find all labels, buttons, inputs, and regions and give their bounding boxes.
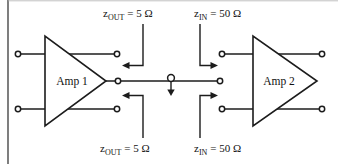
arrow-top-left-line [129, 24, 144, 66]
label-value: = 50 Ω [210, 7, 241, 19]
amp1-bottom-right-terminal [114, 106, 119, 111]
impedance-label-top-left: zOUT= 5 Ω [103, 7, 153, 22]
amp2-block: Amp 2 [217, 36, 324, 126]
impedance-label-top-right: zIN= 50 Ω [194, 7, 241, 22]
label-subscript: IN [199, 148, 208, 157]
amp1-block: Amp 1 [15, 36, 220, 126]
amp1-bottom-left-terminal [15, 106, 20, 111]
amp2-label: Amp 2 [263, 75, 295, 88]
amp2-top-left-terminal [219, 51, 224, 56]
amp1-top-left-terminal [15, 51, 20, 56]
amp1-top-right-terminal [114, 51, 119, 56]
circuit-figure: Amp 1 Amp 2 [0, 0, 338, 164]
amp1-output-terminal [115, 78, 120, 83]
arrow-left-icon [122, 62, 130, 69]
label-value: = 50 Ω [210, 142, 241, 154]
label-value: = 5 Ω [127, 7, 152, 19]
center-junction [167, 75, 174, 96]
down-arrow-icon [167, 90, 174, 97]
arrow-top-right-line [200, 24, 212, 66]
label-subscript: OUT [105, 148, 122, 157]
arrow-right-icon [211, 62, 219, 69]
amp2-top-right-terminal [319, 51, 324, 56]
arrow-bottom-left-line [129, 96, 144, 139]
amp2-bottom-left-terminal [219, 106, 224, 111]
arrow-bottom-right-line [200, 96, 212, 139]
label-value: = 5 Ω [124, 142, 149, 154]
label-subscript: IN [199, 13, 208, 22]
schematic-canvas: Amp 1 Amp 2 [0, 0, 338, 164]
amp2-input-terminal [217, 78, 222, 83]
junction-node-circle [168, 75, 175, 82]
amp1-label: Amp 1 [56, 75, 88, 88]
impedance-label-bottom-right: zIN= 50 Ω [194, 142, 241, 157]
amp2-bottom-right-terminal [319, 106, 324, 111]
label-subscript: OUT [108, 13, 125, 22]
arrow-right-icon [211, 92, 219, 99]
arrow-left-icon [122, 92, 130, 99]
impedance-label-bottom-left: zOUT= 5 Ω [100, 142, 150, 157]
